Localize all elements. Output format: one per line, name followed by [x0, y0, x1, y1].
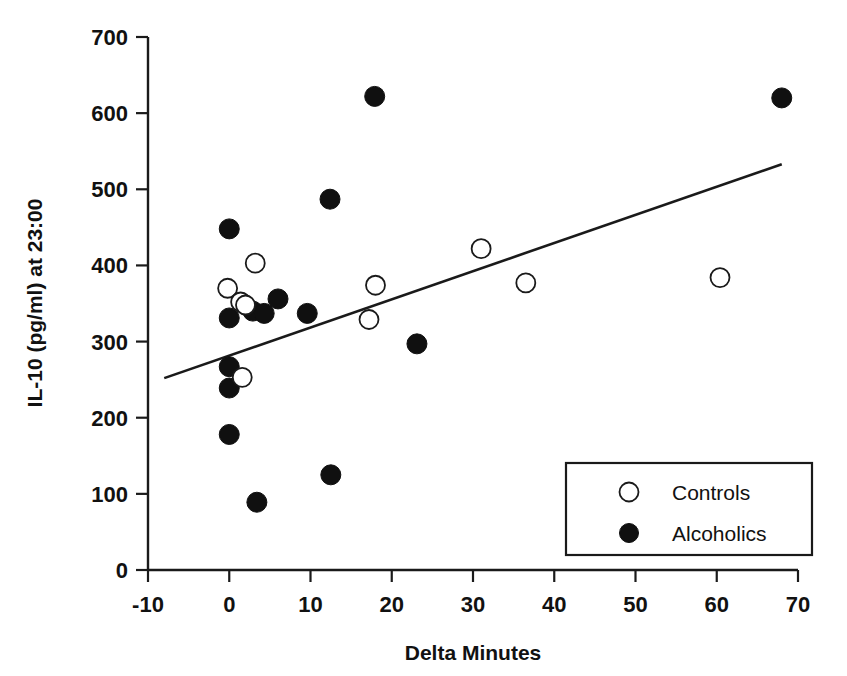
x-tick-label: 0 — [223, 592, 235, 617]
data-point-control — [246, 254, 265, 273]
y-tick-label: 200 — [91, 406, 128, 431]
data-point-alcoholic — [321, 465, 341, 485]
y-tick-label: 400 — [91, 253, 128, 278]
legend-label-alcoholics: Alcoholics — [672, 522, 767, 545]
y-axis-tick-labels: 0100200300400500600700 — [91, 25, 128, 583]
x-axis-title: Delta Minutes — [405, 641, 542, 664]
y-tick-label: 500 — [91, 177, 128, 202]
y-tick-label: 700 — [91, 25, 128, 50]
data-point-alcoholic — [219, 424, 239, 444]
y-tick-label: 600 — [91, 101, 128, 126]
legend-marker-controls — [620, 483, 639, 502]
data-point-control — [233, 368, 252, 387]
series-alcoholics-points — [219, 86, 792, 512]
x-axis-ticks — [148, 570, 798, 582]
y-tick-label: 300 — [91, 330, 128, 355]
data-point-alcoholic — [407, 334, 427, 354]
x-tick-label: 10 — [298, 592, 322, 617]
data-point-control — [711, 268, 730, 287]
data-point-control — [360, 310, 379, 329]
scatter-plot-figure: 0100200300400500600700 -1001020304050607… — [0, 0, 847, 676]
data-point-control — [366, 276, 385, 295]
data-point-alcoholic — [365, 86, 385, 106]
y-tick-label: 0 — [116, 558, 128, 583]
y-axis-title: IL-10 (pg/ml) at 23:00 — [23, 199, 46, 408]
y-tick-label: 100 — [91, 482, 128, 507]
series-controls-points — [218, 239, 729, 387]
x-tick-label: 60 — [705, 592, 729, 617]
data-point-alcoholic — [268, 289, 288, 309]
data-point-control — [236, 296, 255, 315]
legend-label-controls: Controls — [672, 481, 750, 504]
data-point-control — [516, 273, 535, 292]
data-point-alcoholic — [247, 492, 267, 512]
x-tick-label: 30 — [461, 592, 485, 617]
x-tick-label: 70 — [786, 592, 810, 617]
x-tick-label: -10 — [132, 592, 164, 617]
legend: Controls Alcoholics — [566, 463, 812, 555]
x-tick-label: 50 — [623, 592, 647, 617]
data-point-alcoholic — [772, 88, 792, 108]
plot-canvas: 0100200300400500600700 -1001020304050607… — [0, 0, 847, 676]
x-tick-label: 20 — [380, 592, 404, 617]
x-axis-tick-labels: -10010203040506070 — [132, 592, 810, 617]
x-tick-label: 40 — [542, 592, 566, 617]
data-point-alcoholic — [320, 189, 340, 209]
data-point-alcoholic — [219, 219, 239, 239]
data-point-control — [472, 239, 491, 258]
legend-marker-alcoholics — [620, 524, 639, 543]
y-axis-ticks — [136, 37, 148, 570]
data-point-alcoholic — [297, 303, 317, 323]
